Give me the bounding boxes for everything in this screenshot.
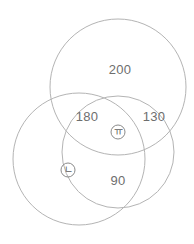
venn-diagram-figure: 200 180 130 90 ㅠ ㄴ — [0, 0, 194, 244]
left-region-marker-glyph: ㄴ — [62, 163, 75, 176]
bottom-overlap-value: 90 — [110, 174, 125, 187]
left-region-marker: ㄴ — [61, 163, 76, 178]
center-region-marker: ㅠ — [111, 125, 126, 140]
top-region-value: 200 — [109, 63, 132, 76]
center-region-marker-glyph: ㅠ — [112, 125, 125, 138]
left-overlap-value: 180 — [76, 110, 99, 123]
right-overlap-value: 130 — [143, 110, 166, 123]
